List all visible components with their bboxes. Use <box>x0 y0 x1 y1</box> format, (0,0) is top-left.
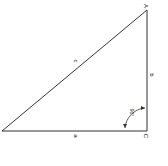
arrowhead-icon <box>141 106 145 110</box>
triangle-figure <box>0 0 168 166</box>
side-label-c: c <box>73 60 79 63</box>
vertex-label-c: C <box>143 134 149 138</box>
side-label-a: a <box>73 134 79 137</box>
triangle-outline <box>2 10 147 131</box>
side-label-b: b <box>149 73 155 76</box>
right-triangle-diagram: A b c a C 90° <box>0 0 168 166</box>
arrowhead-icon <box>123 124 127 128</box>
vertex-label-a: A <box>143 4 149 8</box>
angle-label: 90° <box>129 109 134 117</box>
